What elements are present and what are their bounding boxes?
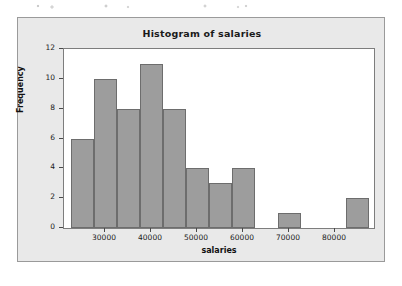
y-axis-tick-mark xyxy=(59,167,63,168)
plot-frame xyxy=(63,48,375,229)
y-axis-tick-label: 0 xyxy=(33,222,55,231)
histogram-bar xyxy=(346,198,369,228)
histogram-bar xyxy=(94,79,117,228)
x-axis-tick-label: 60000 xyxy=(222,233,262,242)
y-axis-tick-mark xyxy=(59,138,63,139)
x-axis-tick-mark xyxy=(104,228,105,232)
chart-title: Histogram of salaries xyxy=(18,28,386,39)
y-axis-tick-mark xyxy=(59,108,63,109)
histogram-bar xyxy=(140,64,163,228)
histogram-bar xyxy=(209,183,232,228)
x-axis-tick-label: 40000 xyxy=(130,233,170,242)
histogram-bar xyxy=(117,109,140,228)
y-axis-tick-label: 8 xyxy=(33,103,55,112)
y-axis-tick-label: 12 xyxy=(33,43,55,52)
histogram-bar xyxy=(71,139,94,229)
y-axis-tick-mark xyxy=(59,78,63,79)
x-axis-tick-label: 70000 xyxy=(268,233,308,242)
y-axis-label: Frequency xyxy=(16,66,25,113)
x-axis-label: salaries xyxy=(63,246,375,255)
x-axis-tick-mark xyxy=(288,228,289,232)
x-axis-tick-mark xyxy=(242,228,243,232)
figure-panel: Histogram of salaries Frequency salaries… xyxy=(17,17,385,262)
histogram-bar xyxy=(232,168,255,228)
y-axis-tick-label: 4 xyxy=(33,162,55,171)
x-axis-tick-mark xyxy=(196,228,197,232)
histogram-bar xyxy=(163,109,186,228)
x-axis-tick-label: 50000 xyxy=(176,233,216,242)
x-axis-tick-label: 30000 xyxy=(84,233,124,242)
histogram-bar xyxy=(186,168,209,228)
plot-area xyxy=(64,49,374,228)
x-axis-tick-label: 80000 xyxy=(314,233,354,242)
y-axis-tick-mark xyxy=(59,227,63,228)
y-axis-tick-mark xyxy=(59,197,63,198)
histogram-bar xyxy=(278,213,301,228)
y-axis-tick-label: 10 xyxy=(33,73,55,82)
y-axis-tick-mark xyxy=(59,48,63,49)
scan-artifact-strip xyxy=(0,0,402,14)
x-axis-tick-mark xyxy=(150,228,151,232)
y-axis-tick-label: 6 xyxy=(33,133,55,142)
y-axis-tick-label: 2 xyxy=(33,192,55,201)
x-axis-tick-mark xyxy=(334,228,335,232)
